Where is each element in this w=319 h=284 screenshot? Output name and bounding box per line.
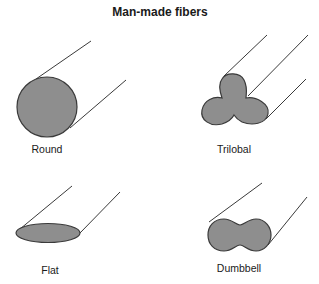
round-fiber-edge-bottom (70, 80, 126, 128)
diagram-title: Man-made fibers (112, 5, 208, 19)
trilobal-cross-section (202, 74, 268, 125)
trilobal-label: Trilobal (217, 143, 251, 155)
round-fiber: Round (17, 41, 126, 155)
dumbbell-fiber-edge-top (209, 183, 262, 222)
dumbbell-fiber-edge-bottom (268, 197, 307, 245)
flat-fiber-edge-bottom (80, 192, 120, 233)
trilobal-fiber-edge-bottom (266, 79, 306, 119)
trilobal-fiber: Trilobal (202, 35, 308, 155)
round-cross-section (17, 77, 77, 137)
fiber-cross-sections-diagram: Man-made fibers Round Trilobal Flat (0, 0, 319, 284)
trilobal-fiber-edge-top (224, 35, 267, 76)
flat-fiber-edge-top (20, 186, 72, 229)
diagram-canvas: Man-made fibers Round Trilobal Flat (0, 0, 319, 284)
dumbbell-fiber: Dumbbell (208, 183, 307, 274)
flat-cross-section (16, 224, 80, 243)
round-label: Round (32, 143, 63, 155)
round-fiber-edge-top (36, 41, 91, 79)
flat-fiber: Flat (16, 186, 120, 276)
dumbbell-label: Dumbbell (217, 262, 261, 274)
dumbbell-cross-section (208, 219, 271, 251)
flat-label: Flat (41, 264, 59, 276)
